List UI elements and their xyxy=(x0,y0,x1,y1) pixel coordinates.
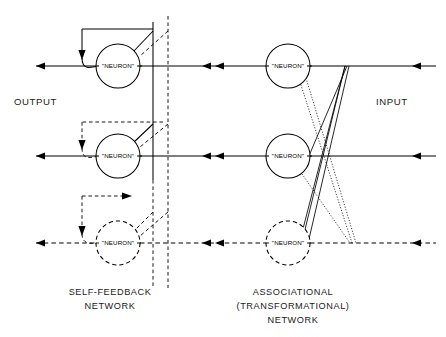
neuron-label: "NEURON" xyxy=(102,62,134,69)
arrowhead-output-top xyxy=(36,62,45,69)
input-label: INPUT xyxy=(376,96,408,107)
output-label: OUTPUT xyxy=(14,96,57,107)
diagram-canvas: "NEURON" "NEURON" "NEURON" "NEURON" "NEU… xyxy=(0,0,446,337)
feedback-bottom-diagonal-a xyxy=(133,212,153,232)
network-diagram: "NEURON" "NEURON" "NEURON" "NEURON" "NEU… xyxy=(0,0,446,337)
arrowhead-mid-b-top xyxy=(215,62,224,69)
feedback-middle-diagonal-dashed xyxy=(140,124,168,147)
arrowhead-mid-b-bottom xyxy=(215,239,224,246)
neuron-label: "NEURON" xyxy=(102,152,134,159)
neuron-right-bottom[interactable]: "NEURON" xyxy=(266,221,310,265)
feedback-bottom-diagonal-b xyxy=(140,212,168,236)
associational-label-line3: NETWORK xyxy=(268,315,319,325)
neuron-right-middle[interactable]: "NEURON" xyxy=(266,134,310,178)
neuron-label: "NEURON" xyxy=(102,239,134,246)
arrowhead-output-bottom xyxy=(36,239,45,246)
feedback-top-diagonal-solid xyxy=(133,31,153,52)
arrowhead-input-middle xyxy=(412,152,421,159)
neuron-label: "NEURON" xyxy=(272,62,304,69)
arrowhead-feedback-bottom-right xyxy=(122,192,132,199)
neuron-label: "NEURON" xyxy=(272,239,304,246)
neuron-left-middle[interactable]: "NEURON" xyxy=(96,134,140,178)
neuron-label: "NEURON" xyxy=(272,152,304,159)
arrowhead-mid-b-middle xyxy=(215,152,224,159)
cross-dot-middle-to-bottom xyxy=(302,174,350,243)
associational-label-line1: ASSOCIATIONAL xyxy=(253,287,334,297)
arrowhead-input-top xyxy=(412,62,421,69)
self-feedback-label-line2: NETWORK xyxy=(85,301,136,311)
arrowhead-mid-a-middle xyxy=(202,152,211,159)
arrowhead-mid-a-bottom xyxy=(202,239,211,246)
self-feedback-label-line1: SELF-FEEDBACK xyxy=(69,287,152,297)
neuron-right-top[interactable]: "NEURON" xyxy=(266,44,310,88)
feedback-middle-diagonal-solid xyxy=(133,124,153,143)
arrowhead-input-bottom xyxy=(412,239,421,246)
associational-label-line2: (TRANSFORMATIONAL) xyxy=(237,301,350,311)
neuron-left-bottom[interactable]: "NEURON" xyxy=(96,221,140,265)
cross-solid-bottom-to-top-b xyxy=(306,66,349,252)
arrowhead-mid-a-top xyxy=(202,62,211,69)
neuron-left-top[interactable]: "NEURON" xyxy=(96,44,140,88)
feedback-top-diagonal-dashed xyxy=(140,31,168,56)
arrowhead-output-middle xyxy=(36,152,45,159)
